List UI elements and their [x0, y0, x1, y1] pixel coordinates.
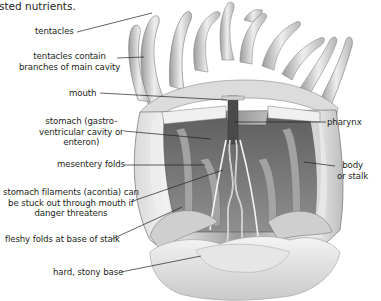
- label-body-stalk: body or stalk: [337, 160, 368, 181]
- label-fleshy-folds: fleshy folds at base of stalk: [5, 234, 120, 245]
- label-mouth: mouth: [69, 88, 96, 99]
- pharynx-tube: [228, 96, 238, 144]
- caption-text: sted nutrients.: [0, 0, 76, 12]
- label-tentacles: tentacles: [35, 26, 74, 37]
- label-stony-base: hard, stony base: [53, 267, 123, 278]
- anemone-diagram: sted nutrients. tentacles tentacles cont…: [0, 0, 381, 301]
- leader-tentacles-branches: [117, 57, 144, 58]
- label-pharynx: pharynx: [327, 117, 362, 128]
- tentacles-back: [194, 2, 337, 94]
- anemone-illustration: [0, 0, 381, 301]
- label-mesentery-folds: mesentery folds: [57, 159, 125, 170]
- leader-tentacles: [77, 13, 152, 32]
- label-stomach: stomach (gastro- ventricular cavity or e…: [39, 116, 124, 148]
- label-stomach-filaments: stomach filaments (acontia) can be stuck…: [3, 187, 139, 219]
- label-tentacles-branches: tentacles contain branches of main cavit…: [19, 51, 120, 72]
